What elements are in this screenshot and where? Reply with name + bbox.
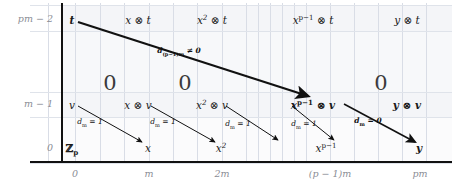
arrow-label-d-m-0: dm = 0 [354,117,381,125]
arrow-label-long-differential: d(p−1)m ≠ 0 [157,47,201,55]
arrow-label-d-m-1-a: dm = 1 [77,118,102,126]
arrow-long-differential [78,22,308,96]
arrow-layer [0,0,452,187]
arrow-label-d-m-1-d: dm = 1 [291,120,316,128]
diagram-canvas: pm − 2 m − 1 0 0m2m(p − 1)mpm tx ⊗ tx2 ⊗… [0,0,452,187]
arrow-label-d-m-1-b: dm = 1 [150,118,175,126]
arrow-label-d-m-1-c: dm = 1 [225,120,250,128]
